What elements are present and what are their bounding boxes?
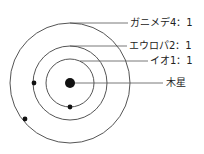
label-jupiter: 木星 xyxy=(166,77,186,89)
label-io: イオ1：1 xyxy=(150,55,193,67)
label-ganymede: ガニメデ4：1 xyxy=(130,17,193,29)
europa-moon-dot xyxy=(32,81,37,86)
jupiter-dot xyxy=(65,78,75,88)
io-moon-dot xyxy=(68,105,73,110)
leader-lines xyxy=(70,23,163,83)
label-europa: エウロパ2：1 xyxy=(129,40,192,52)
ganymede-moon-dot xyxy=(23,117,28,122)
